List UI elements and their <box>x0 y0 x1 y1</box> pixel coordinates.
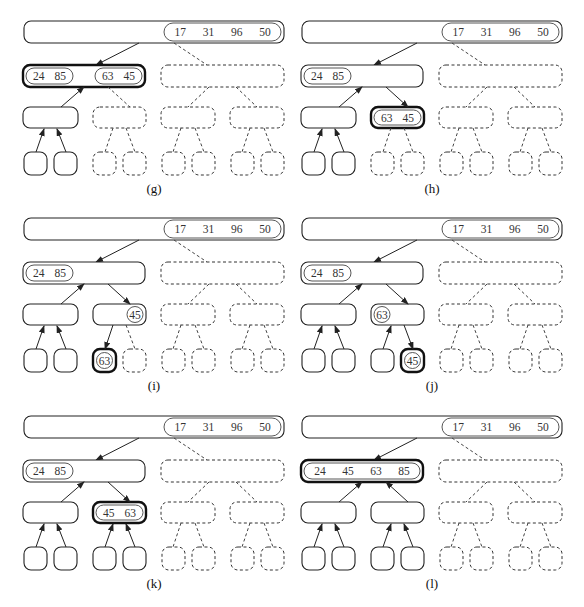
edge-dashed <box>542 128 551 152</box>
sequence-value: 50 <box>537 421 549 433</box>
sequence-value: 50 <box>537 223 549 235</box>
edge-dashed <box>473 128 482 152</box>
edge-dashed <box>451 325 459 349</box>
level2-node-2 <box>371 502 424 523</box>
leaf-node-5 <box>440 349 463 372</box>
level2-node-4 <box>508 107 562 128</box>
arrow-l2a-to-l1 <box>61 87 84 107</box>
sequence-value: 96 <box>509 26 521 38</box>
panel-i: 1731965024854563(i) <box>23 218 284 393</box>
arrow-leaf1-to-l2a <box>36 326 44 349</box>
edge-dashed <box>466 284 487 304</box>
arrow-l1-to-l2b <box>386 87 408 107</box>
edge-dashed <box>242 128 250 152</box>
level2-node-1 <box>23 107 78 128</box>
sequence-value: 31 <box>203 223 215 235</box>
panel-j: 1731965024856345(j) <box>301 218 562 393</box>
edge-dashed <box>242 325 250 349</box>
leaf-node-8 <box>261 152 284 175</box>
leaf-node-5 <box>440 547 463 570</box>
edge-dashed <box>520 325 528 349</box>
root-node <box>24 416 284 438</box>
level1-right-node <box>161 460 284 482</box>
level2-node-1 <box>301 502 356 523</box>
edge-root-to-right-dashed <box>452 43 485 65</box>
edge-dashed <box>188 284 209 304</box>
sequence-value: 17 <box>174 421 186 433</box>
arrow-l2a-to-l1 <box>61 284 84 304</box>
arrow-l2a-to-l1 <box>339 482 362 502</box>
leaf-node-1 <box>302 547 325 570</box>
level1-right-node <box>439 262 562 284</box>
edge-dashed <box>195 523 204 547</box>
arrow-l2b-to-l1 <box>386 482 408 502</box>
leaf-node-5 <box>162 152 185 175</box>
level2-node-3 <box>439 304 493 325</box>
edge-root-to-right-dashed <box>452 240 485 262</box>
leaf-node-4 <box>123 152 146 175</box>
sequence-value: 17 <box>452 223 464 235</box>
level1-right-node <box>439 65 562 87</box>
arrow-leaf1-to-l2a <box>314 326 322 349</box>
arrow-leaf2-to-l2a <box>57 524 66 547</box>
edge-dashed <box>173 523 181 547</box>
arrow-l2b-to-leaf3 <box>105 325 113 349</box>
arrow-l2a-to-l1 <box>61 482 84 502</box>
sequence-value: 50 <box>537 26 549 38</box>
edge-dashed <box>236 284 257 304</box>
edge-dashed <box>473 325 482 349</box>
level1-right-node <box>439 460 562 482</box>
level2-node-1 <box>23 502 78 523</box>
sequence-value: 63 <box>376 309 388 321</box>
sequence-value: 24 <box>311 267 323 279</box>
root-node <box>24 21 284 43</box>
sequence-value: 45 <box>103 507 115 519</box>
sequence-value: 45 <box>124 70 136 82</box>
level2-node-2 <box>93 107 146 128</box>
sequence-value: 31 <box>481 26 493 38</box>
arrow-l2b-to-leaf4 <box>404 325 413 349</box>
level2-node-3 <box>439 107 493 128</box>
leaf-node-1 <box>24 349 47 372</box>
leaf-node-2 <box>54 152 77 175</box>
arrow-root-to-left <box>96 438 139 460</box>
edge-l2b-leaf3-dashed <box>383 128 391 152</box>
edge-dashed <box>542 325 551 349</box>
leaf-node-6 <box>470 152 493 175</box>
sequence-value: 17 <box>174 26 186 38</box>
leaf-node-5 <box>162 547 185 570</box>
leaf-node-8 <box>539 152 562 175</box>
leaf-node-7 <box>231 349 254 372</box>
sequence-value: 50 <box>259 26 271 38</box>
sequence-value: 45 <box>129 309 141 321</box>
leaf-node-4 <box>123 547 146 570</box>
leaf-node-6 <box>470 349 493 372</box>
sequence-value: 63 <box>99 355 111 367</box>
panels-container: 1731965024856345(g)1731965024856345(h)17… <box>23 21 562 591</box>
root-node <box>302 416 562 438</box>
edge-dashed <box>466 482 487 502</box>
edge-l2b-leaf4-dashed <box>126 128 135 152</box>
leaf-node-2 <box>332 152 355 175</box>
sequence-value: 45 <box>403 112 415 124</box>
sequence-value: 96 <box>231 223 243 235</box>
arrow-l2a-to-l1 <box>339 87 362 107</box>
panel-label: (l) <box>426 576 438 591</box>
sequence-value: 24 <box>314 465 326 477</box>
edge-dashed <box>514 87 535 107</box>
sequence-value: 17 <box>174 223 186 235</box>
leaf-node-8 <box>261 547 284 570</box>
sequence-value: 85 <box>55 465 67 477</box>
arrow-l1-to-l2b <box>108 482 130 502</box>
sequence-value: 24 <box>33 465 45 477</box>
leaf-node-4 <box>401 152 424 175</box>
arrow-leaf4-to-l2b <box>126 524 135 547</box>
panel-h: 1731965024856345(h) <box>301 21 562 196</box>
leaf-node-2 <box>332 349 355 372</box>
arrow-leaf1-to-l2a <box>36 129 44 152</box>
sequence-value: 63 <box>102 70 114 82</box>
leaf-node-1 <box>24 152 47 175</box>
leaf-node-8 <box>539 547 562 570</box>
level1-right-node <box>161 65 284 87</box>
edge-dashed <box>236 482 257 502</box>
